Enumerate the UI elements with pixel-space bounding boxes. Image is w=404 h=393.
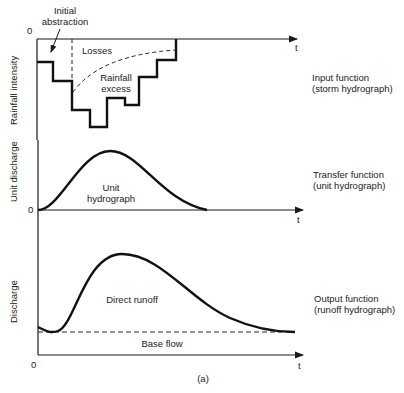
input-function-label-2: (storm hydrograph) — [312, 83, 393, 94]
base-flow-label: Base flow — [141, 338, 182, 349]
output-panel — [38, 220, 303, 355]
runoff-hydrograph-curve — [38, 254, 295, 332]
input-panel — [37, 29, 297, 140]
rainfall-excess-label-1: Rainfall — [100, 72, 132, 83]
input-t-label: t — [295, 42, 298, 53]
initial-abstraction-label-1: Initial — [54, 5, 76, 16]
output-function-label-2: (runoff hydrograph) — [314, 304, 395, 315]
unit-hydrograph-label-2: hydrograph — [87, 193, 135, 204]
rainfall-excess-label-2: excess — [101, 83, 131, 94]
output-t-label: t — [298, 360, 301, 371]
direct-runoff-label: Direct runoff — [106, 294, 158, 305]
hydrograph-diagram — [0, 0, 404, 393]
transfer-t-label: t — [297, 214, 300, 225]
input-y-label: Rainfall intensity — [8, 56, 19, 125]
transfer-y-label: Unit discharge — [8, 141, 19, 202]
input-function-label-1: Input function — [312, 72, 369, 83]
transfer-function-label-1: Transfer function — [313, 169, 384, 180]
losses-label: Losses — [82, 45, 112, 56]
output-origin-label: 0 — [31, 359, 36, 370]
output-y-label: Discharge — [8, 280, 19, 323]
transfer-origin-label: 0 — [28, 204, 33, 215]
input-origin-label: 0 — [27, 25, 32, 36]
initial-abstraction-arrow — [51, 29, 60, 52]
transfer-function-label-2: (unit hydrograph) — [313, 180, 385, 191]
output-function-label-1: Output function — [314, 293, 378, 304]
initial-abstraction-label-2: abstraction — [42, 16, 88, 27]
transfer-panel — [38, 140, 303, 220]
figure-caption: (a) — [197, 373, 209, 384]
unit-hydrograph-label-1: Unit — [103, 182, 120, 193]
